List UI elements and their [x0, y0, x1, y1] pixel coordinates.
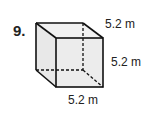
label-top-edge: 5.2 m: [105, 17, 135, 31]
cube-front-face: [56, 38, 103, 87]
label-bottom-edge: 5.2 m: [68, 93, 98, 107]
label-right-edge: 5.2 m: [111, 55, 141, 69]
